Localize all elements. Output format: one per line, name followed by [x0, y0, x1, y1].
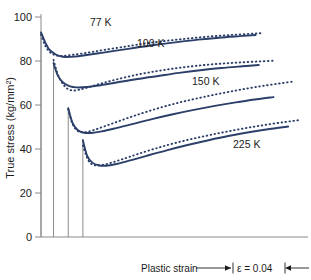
label-225K: 225 K: [233, 138, 260, 150]
y-tick-label-60: 60: [20, 99, 32, 111]
y-tick-label-80: 80: [20, 55, 32, 67]
y-tick-label-20: 20: [20, 187, 32, 199]
y-tick-label-0: 0: [26, 231, 32, 243]
y-tick-label-40: 40: [20, 143, 32, 155]
y-tick-label-100: 100: [14, 11, 32, 23]
x-axis-title: Plastic strain: [141, 263, 198, 274]
label-77K: 77 K: [90, 16, 112, 28]
true-stress-plastic-strain-chart: 0 20 40 60 80 100 True stress (kg/mm²) 7…: [0, 0, 311, 280]
label-100K: 100 K: [137, 37, 164, 49]
label-150K: 150 K: [192, 75, 219, 87]
chart-figure: 0 20 40 60 80 100 True stress (kg/mm²) 7…: [0, 0, 311, 280]
strain-interval-label: ε = 0.04: [237, 263, 273, 274]
y-axis-title: True stress (kg/mm²): [4, 77, 16, 179]
